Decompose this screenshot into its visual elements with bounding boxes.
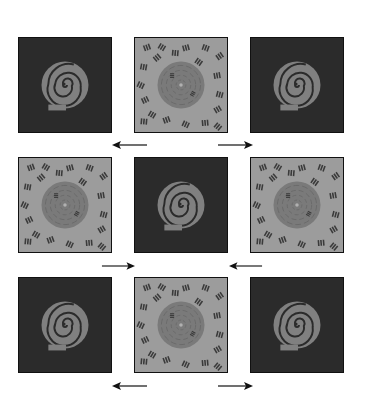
panel-r3-c1-dark-spiral xyxy=(18,277,112,373)
spiral-icon xyxy=(19,38,111,132)
panel-r2-c3-textured-spiral xyxy=(250,157,344,253)
arrow-left-icon xyxy=(112,381,148,391)
panel-r1-c1-dark-spiral xyxy=(18,37,112,133)
spiral-icon xyxy=(19,278,111,372)
panel-r1-c2-textured-spiral xyxy=(134,37,228,133)
arrow-right-icon xyxy=(217,140,253,150)
arrow-left-icon xyxy=(229,261,263,271)
panel-r3-c2-textured-spiral xyxy=(134,277,228,373)
panel-r2-c1-textured-spiral xyxy=(18,157,112,253)
panel-r3-c3-dark-spiral xyxy=(250,277,344,373)
panel-r2-c2-dark-spiral xyxy=(134,157,228,253)
textured-spiral-icon xyxy=(135,278,227,372)
textured-spiral-icon xyxy=(135,38,227,132)
spiral-icon xyxy=(135,158,227,252)
spiral-icon xyxy=(251,38,343,132)
arrow-left-icon xyxy=(112,140,148,150)
textured-spiral-icon xyxy=(251,158,343,252)
spiral-icon xyxy=(251,278,343,372)
arrow-right-icon xyxy=(217,381,253,391)
textured-spiral-icon xyxy=(19,158,111,252)
panel-r1-c3-dark-spiral xyxy=(250,37,344,133)
arrow-right-icon xyxy=(101,261,135,271)
